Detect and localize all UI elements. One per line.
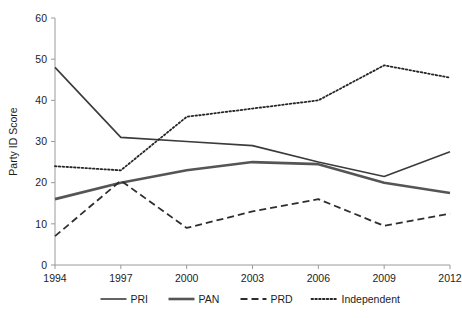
x-tick-label: 2009 — [372, 272, 396, 284]
legend-item-pri[interactable]: PRI — [101, 293, 149, 305]
series-line-independent — [55, 65, 450, 170]
chart-axes — [55, 18, 450, 265]
party-id-score-line-chart: 0102030405060199419972000200320062009201… — [0, 0, 462, 318]
x-tick-label: 2006 — [307, 272, 331, 284]
legend-label-independent: Independent — [342, 293, 400, 305]
y-tick-label: 0 — [41, 259, 47, 271]
chart-series-group — [55, 65, 450, 236]
x-tick-label: 2000 — [175, 272, 199, 284]
y-tick-label: 20 — [35, 176, 47, 188]
legend-label-pri: PRI — [131, 293, 149, 305]
y-axis-ticks: 0102030405060 — [35, 12, 55, 271]
chart-legend: PRIPANPRDIndependent — [101, 293, 400, 305]
legend-label-pan: PAN — [199, 293, 220, 305]
legend-label-prd: PRD — [271, 293, 294, 305]
y-tick-label: 50 — [35, 53, 47, 65]
series-line-pri — [55, 67, 450, 176]
legend-item-pan[interactable]: PAN — [169, 293, 220, 305]
x-tick-label: 1997 — [109, 272, 133, 284]
y-tick-label: 60 — [35, 12, 47, 24]
series-line-prd — [55, 181, 450, 237]
y-axis-title: Party ID Score — [7, 107, 19, 175]
x-axis-ticks: 1994199720002003200620092012 — [43, 265, 462, 284]
series-line-pan — [55, 162, 450, 199]
legend-item-prd[interactable]: PRD — [241, 293, 294, 305]
legend-item-independent[interactable]: Independent — [312, 293, 400, 305]
y-tick-label: 40 — [35, 94, 47, 106]
x-tick-label: 2012 — [438, 272, 462, 284]
y-tick-label: 10 — [35, 218, 47, 230]
x-tick-label: 2003 — [241, 272, 265, 284]
y-tick-label: 30 — [35, 135, 47, 147]
chart-container: 0102030405060199419972000200320062009201… — [0, 0, 462, 318]
x-tick-label: 1994 — [43, 272, 67, 284]
